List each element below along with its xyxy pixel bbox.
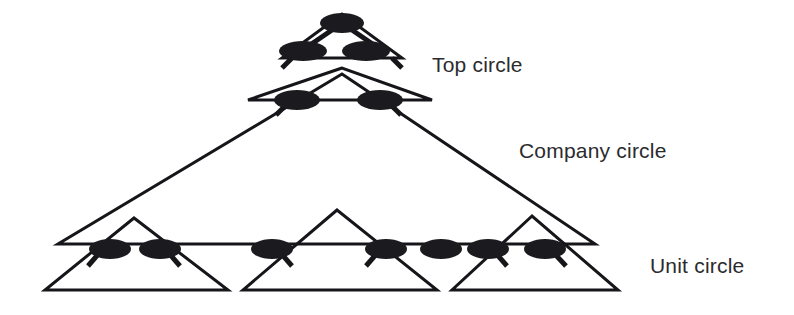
node-unit-6 [467,239,509,259]
node-top-apex [320,13,364,33]
label-company-circle: Company circle [519,139,667,162]
node-company-right [357,90,403,110]
node-top-right [342,41,390,61]
second-level-triangle [248,68,432,100]
node-top-left [279,41,327,61]
node-unit-5 [420,239,462,259]
node-unit-3 [251,239,293,259]
node-unit-2 [139,239,181,259]
node-unit-1 [89,239,131,259]
label-top-circle: Top circle [432,53,523,76]
circle-hierarchy-diagram: Top circleCompany circleUnit circle [0,0,794,315]
circle-nodes-layer [89,13,566,259]
diagram-canvas: Top circleCompany circleUnit circle [0,0,794,315]
node-unit-4 [365,239,407,259]
node-company-left [274,90,320,110]
unit-triangle-left [45,218,228,290]
node-unit-7 [524,239,566,259]
label-unit-circle: Unit circle [650,254,744,277]
